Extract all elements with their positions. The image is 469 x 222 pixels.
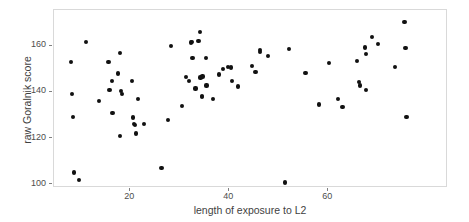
scatter-point — [190, 56, 194, 60]
scatter-point — [317, 102, 321, 106]
scatter-point — [250, 64, 254, 68]
scatter-point — [370, 35, 374, 39]
scatter-point — [71, 115, 75, 119]
scatter-point — [211, 97, 215, 101]
scatter-point — [327, 61, 331, 65]
scatter-point — [120, 92, 124, 96]
scatter-point — [180, 104, 184, 108]
scatter-point — [187, 79, 191, 83]
scatter-point — [204, 83, 208, 87]
scatter-point — [133, 123, 137, 127]
scatter-point — [283, 180, 287, 184]
scatter-point — [287, 47, 291, 51]
scatter-point — [134, 131, 138, 135]
scatter-point — [131, 115, 135, 119]
scatter-point — [253, 70, 257, 74]
scatter-point — [336, 97, 340, 101]
scatter-point — [84, 40, 88, 44]
scatter-point — [200, 74, 204, 78]
scatter-point — [200, 95, 204, 99]
scatter-point — [403, 46, 407, 50]
y-axis-tick-mark — [49, 183, 52, 184]
scatter-point — [159, 166, 163, 170]
scatter-point — [236, 84, 240, 88]
scatter-point — [169, 44, 173, 48]
scatter-points-layer — [54, 10, 446, 186]
y-axis-tick-mark — [49, 137, 52, 138]
scatter-point — [142, 122, 146, 126]
scatter-point — [106, 60, 110, 64]
scatter-point — [376, 42, 380, 46]
scatter-point — [97, 99, 101, 103]
scatter-point — [266, 54, 270, 58]
x-axis-tick-mark — [129, 188, 130, 191]
scatter-point — [136, 97, 140, 101]
scatter-point — [70, 92, 74, 96]
y-axis-tick-mark — [49, 45, 52, 46]
scatter-point — [193, 86, 197, 90]
scatter-point — [116, 71, 120, 75]
y-axis-tick-mark — [49, 91, 52, 92]
scatter-point — [364, 52, 368, 56]
scatter-point — [198, 30, 202, 34]
scatter-point — [303, 71, 307, 75]
x-axis-tick-label: 20 — [114, 192, 144, 201]
scatter-point — [393, 65, 397, 69]
scatter-point — [363, 45, 367, 49]
x-axis-title: length of exposure to L2 — [53, 204, 447, 216]
x-axis-tick-label: 60 — [312, 192, 342, 201]
scatter-point — [404, 115, 408, 119]
scatter-point — [340, 105, 344, 109]
scatter-point — [364, 88, 368, 92]
scatter-point — [196, 39, 200, 43]
x-axis-tick-mark — [327, 188, 328, 191]
scatter-point — [230, 79, 234, 83]
scatter-point — [217, 72, 221, 76]
scatter-point — [402, 20, 406, 24]
scatter-plot-figure: 100120140160 204060 length of exposure t… — [0, 0, 469, 222]
scatter-point — [130, 79, 134, 83]
scatter-point — [118, 134, 122, 138]
scatter-point — [118, 51, 122, 55]
scatter-point — [229, 65, 233, 69]
y-axis-title: raw Goralnik score — [21, 11, 33, 189]
scatter-point — [204, 56, 208, 60]
scatter-point — [110, 79, 114, 83]
x-axis-tick-label: 40 — [213, 192, 243, 201]
plot-panel — [53, 9, 447, 187]
scatter-point — [166, 118, 170, 122]
scatter-point — [107, 88, 111, 92]
scatter-point — [358, 83, 362, 87]
scatter-point — [190, 40, 194, 44]
scatter-point — [221, 67, 225, 71]
scatter-point — [355, 59, 359, 63]
scatter-point — [72, 170, 76, 174]
scatter-point — [69, 60, 73, 64]
x-axis-tick-mark — [228, 188, 229, 191]
scatter-point — [110, 111, 114, 115]
scatter-point — [77, 178, 81, 182]
scatter-point — [258, 50, 262, 54]
